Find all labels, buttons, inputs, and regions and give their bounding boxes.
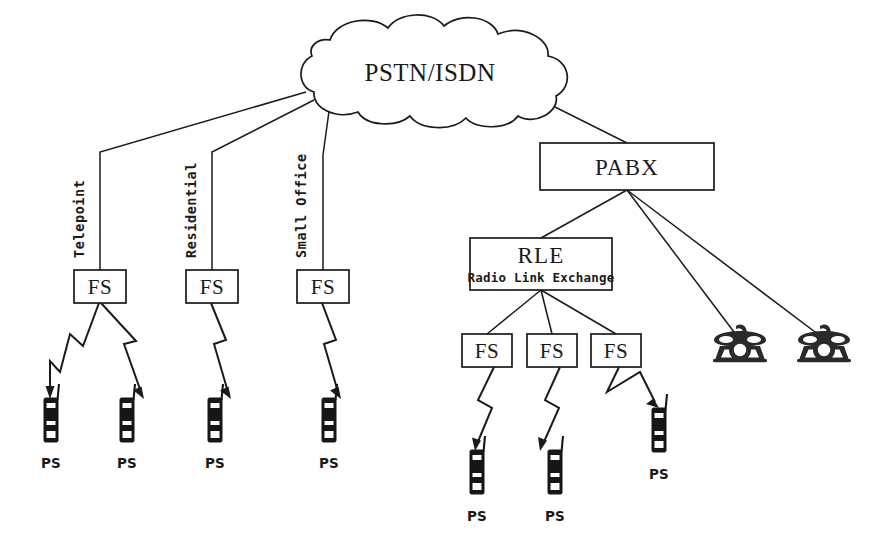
handset-ps-5-label: PS xyxy=(467,508,487,524)
branch-label-telepoint: Telepoint xyxy=(71,179,87,258)
handset-ps-2-label: PS xyxy=(117,455,137,471)
branch-label-small-office: Small Office xyxy=(293,153,309,258)
radio-link-fs-telepoint-ps1 xyxy=(46,303,100,399)
cloud-label: PSTN/ISDN xyxy=(365,59,496,86)
handset-ps-1[interactable]: PS xyxy=(41,384,61,471)
branch-label-residential: Residential xyxy=(183,162,199,258)
pabx-node[interactable]: PABX xyxy=(540,143,714,190)
handset-ps-4-label: PS xyxy=(319,455,339,471)
fs-telepoint-node[interactable]: FS xyxy=(74,270,126,303)
fs-smalloffice-label: FS xyxy=(311,275,335,299)
radio-links-group xyxy=(46,303,660,451)
handset-ps-7-label: PS xyxy=(649,466,669,482)
link-cloud-to-fs-telepoint xyxy=(100,92,306,270)
fs-smalloffice-node[interactable]: FS xyxy=(297,270,349,303)
telephone-1[interactable] xyxy=(713,324,767,362)
handset-ps-3-label: PS xyxy=(205,455,225,471)
handset-ps-7[interactable]: PS xyxy=(649,394,669,482)
radio-link-fs-smalloffice-ps4 xyxy=(322,303,341,399)
fs-residential-node[interactable]: FS xyxy=(186,270,238,303)
handset-ps-6[interactable]: PS xyxy=(545,436,565,524)
branch-labels-group: Telepoint Residential Small Office xyxy=(71,153,309,258)
rle-node[interactable]: RLE Radio Link Exchange xyxy=(468,238,615,290)
radio-link-fs-rle3-ps7 xyxy=(607,367,659,408)
fs-residential-label: FS xyxy=(200,275,224,299)
handset-ps-5[interactable]: PS xyxy=(467,436,487,524)
network-diagram: PSTN/ISDN Telepoint Residential Small Of… xyxy=(0,0,884,556)
rle-sublabel: Radio Link Exchange xyxy=(468,270,615,285)
link-rle-to-fs-3 xyxy=(541,290,616,334)
fs-rle-3-node[interactable]: FS xyxy=(591,334,641,367)
link-cloud-to-fs-smalloffice xyxy=(323,104,330,270)
network-diagram-canvas: PSTN/ISDN Telepoint Residential Small Of… xyxy=(0,0,884,556)
handset-ps-3[interactable]: PS xyxy=(205,384,225,471)
link-pabx-to-rle xyxy=(541,190,627,238)
link-pabx-to-phone-2 xyxy=(627,190,823,338)
telephone-2[interactable] xyxy=(797,324,851,362)
handset-ps-6-label: PS xyxy=(545,508,565,524)
fs-rle-1-node[interactable]: FS xyxy=(462,334,512,367)
handset-ps-4[interactable]: PS xyxy=(319,384,339,471)
fs-rle-2-label: FS xyxy=(540,339,564,363)
handset-ps-1-label: PS xyxy=(41,455,61,471)
link-cloud-to-pabx xyxy=(549,104,627,143)
fs-rle-2-node[interactable]: FS xyxy=(527,334,577,367)
link-rle-to-fs-2 xyxy=(541,290,552,334)
link-rle-to-fs-1 xyxy=(487,290,541,334)
fs-rle-1-label: FS xyxy=(475,339,499,363)
rle-label: RLE xyxy=(517,243,564,268)
radio-link-fs-rle2-ps6 xyxy=(538,367,560,451)
radio-link-fs-telepoint-ps2 xyxy=(101,303,144,399)
fs-telepoint-label: FS xyxy=(88,275,112,299)
pabx-label: PABX xyxy=(595,155,659,180)
radio-link-fs-rle1-ps5 xyxy=(472,367,494,451)
link-pabx-to-phone-1 xyxy=(627,190,740,340)
pstn-isdn-cloud[interactable]: PSTN/ISDN xyxy=(301,15,567,128)
fs-rle-3-label: FS xyxy=(604,339,628,363)
radio-link-fs-residential-ps3 xyxy=(211,303,231,399)
handset-ps-2[interactable]: PS xyxy=(117,384,137,471)
